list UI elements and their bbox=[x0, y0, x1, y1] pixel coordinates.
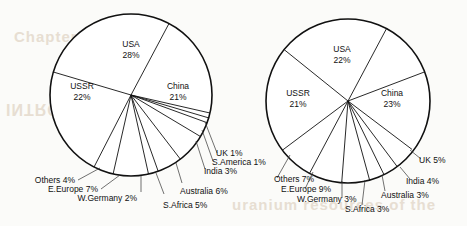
left-label-india: India 3% bbox=[204, 166, 238, 176]
right-pie-chart: USA 22% China 23% USSR 21% Others 7% E.E… bbox=[266, 19, 446, 214]
right-label-australia: Australia 3% bbox=[381, 190, 429, 200]
right-label-eeurope: E.Europe 9% bbox=[281, 184, 332, 194]
pie-chart-pair: USA 28% China 21% USSR 22% Others 4% E.E… bbox=[0, 0, 467, 226]
left-pie-chart: USA 28% China 21% USSR 22% Others 4% E.E… bbox=[35, 14, 266, 210]
right-label-safrica: S.Africa 3% bbox=[345, 204, 390, 214]
left-leader-eeurope bbox=[101, 175, 120, 189]
right-label-usa-name: USA bbox=[333, 44, 351, 54]
left-leader-india bbox=[196, 141, 205, 169]
right-label-others: Others 7% bbox=[274, 174, 315, 184]
left-leader-australia bbox=[176, 163, 182, 183]
left-label-safrica: S.Africa 5% bbox=[163, 200, 208, 210]
left-leader-safrica bbox=[156, 173, 164, 194]
left-label-wgermany: W.Germany 2% bbox=[77, 193, 137, 203]
left-label-china-name: China bbox=[167, 81, 189, 91]
right-label-india: India 4% bbox=[406, 176, 440, 186]
left-label-usa-name: USA bbox=[122, 39, 140, 49]
left-label-usa-pct: 28% bbox=[122, 50, 139, 60]
left-label-china-pct: 21% bbox=[169, 92, 186, 102]
left-label-australia: Australia 6% bbox=[180, 186, 228, 196]
left-label-ussr-pct: 22% bbox=[73, 92, 90, 102]
right-label-wgermany: W.Germany 3% bbox=[297, 194, 357, 204]
figure-canvas: Chapter 3 INTRODUCTION uranium resources… bbox=[0, 0, 467, 226]
left-label-uk: UK 1% bbox=[216, 148, 243, 158]
right-leader-safrica bbox=[362, 180, 365, 205]
right-label-china-pct: 23% bbox=[383, 99, 400, 109]
right-label-uk: UK 5% bbox=[419, 155, 446, 165]
right-leader-australia bbox=[382, 175, 385, 191]
right-label-ussr-name: USSR bbox=[286, 88, 310, 98]
left-label-samerica: S.America 1% bbox=[212, 157, 266, 167]
right-label-usa-pct: 22% bbox=[333, 55, 350, 65]
right-label-china-name: China bbox=[381, 88, 403, 98]
left-label-ussr-name: USSR bbox=[70, 81, 94, 91]
right-label-ussr-pct: 21% bbox=[289, 99, 306, 109]
left-leader-others bbox=[78, 168, 100, 180]
